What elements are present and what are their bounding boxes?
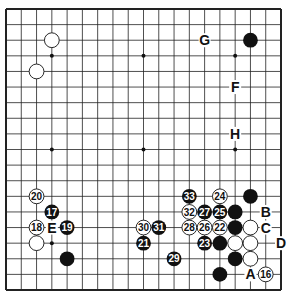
letter-marker: G <box>199 32 210 48</box>
white-stone: 24 <box>212 189 227 204</box>
move-number: 23 <box>199 238 211 249</box>
white-stone <box>243 220 258 235</box>
black-stone: 19 <box>60 220 75 235</box>
black-stone: 23 <box>197 236 212 251</box>
letter-marker: F <box>231 79 240 95</box>
move-number: 17 <box>46 207 58 218</box>
move-number: 22 <box>214 222 226 233</box>
white-stone: 16 <box>258 267 273 282</box>
white-stone: 22 <box>212 220 227 235</box>
white-stone <box>228 236 243 251</box>
star-point <box>50 241 54 245</box>
white-stone: 20 <box>29 189 44 204</box>
move-number: 28 <box>184 222 196 233</box>
letter-marker: D <box>276 235 286 251</box>
white-stone: 18 <box>29 220 44 235</box>
white-stone <box>243 236 258 251</box>
move-number: 30 <box>138 222 150 233</box>
move-number: 27 <box>199 207 211 218</box>
black-stone <box>228 205 243 220</box>
move-number: 16 <box>260 269 272 280</box>
move-number: 24 <box>214 191 226 202</box>
star-point <box>50 54 54 58</box>
move-number: 26 <box>199 222 211 233</box>
star-point <box>142 54 146 58</box>
letter-marker: H <box>230 126 240 142</box>
move-number: 29 <box>168 253 180 264</box>
black-stone <box>243 33 258 48</box>
letter-marker: B <box>261 204 271 220</box>
star-point <box>50 148 54 152</box>
white-stone <box>29 236 44 251</box>
black-stone <box>60 251 75 266</box>
move-number: 31 <box>153 222 165 233</box>
black-stone: 31 <box>151 220 166 235</box>
black-stone: 21 <box>136 236 151 251</box>
white-stone: 32 <box>182 205 197 220</box>
black-stone <box>243 189 258 204</box>
move-number: 20 <box>31 191 43 202</box>
black-stone: 25 <box>212 205 227 220</box>
white-stone <box>44 33 59 48</box>
go-board: 201718193031212933243227252826222316 GFH… <box>0 0 290 303</box>
diagram-caption <box>0 296 290 303</box>
letter-marker: A <box>245 266 255 282</box>
black-stone: 17 <box>44 205 59 220</box>
move-number: 21 <box>138 238 150 249</box>
black-stone <box>212 236 227 251</box>
star-point <box>233 54 237 58</box>
star-point <box>142 148 146 152</box>
move-number: 32 <box>184 207 196 218</box>
black-stone: 27 <box>197 205 212 220</box>
stones-layer: 201718193031212933243227252826222316 <box>29 33 273 282</box>
move-number: 18 <box>31 222 43 233</box>
move-number: 19 <box>62 222 74 233</box>
move-number: 25 <box>214 207 226 218</box>
white-stone: 28 <box>182 220 197 235</box>
white-stone: 30 <box>136 220 151 235</box>
black-stone: 33 <box>182 189 197 204</box>
move-number: 33 <box>184 191 196 202</box>
white-stone <box>29 64 44 79</box>
white-stone: 26 <box>197 220 212 235</box>
black-stone: 29 <box>167 251 182 266</box>
black-stone <box>228 220 243 235</box>
letter-marker: E <box>47 220 56 236</box>
star-point <box>233 148 237 152</box>
black-stone <box>228 251 243 266</box>
black-stone <box>212 267 227 282</box>
letter-marker: C <box>261 220 271 236</box>
white-stone <box>243 251 258 266</box>
